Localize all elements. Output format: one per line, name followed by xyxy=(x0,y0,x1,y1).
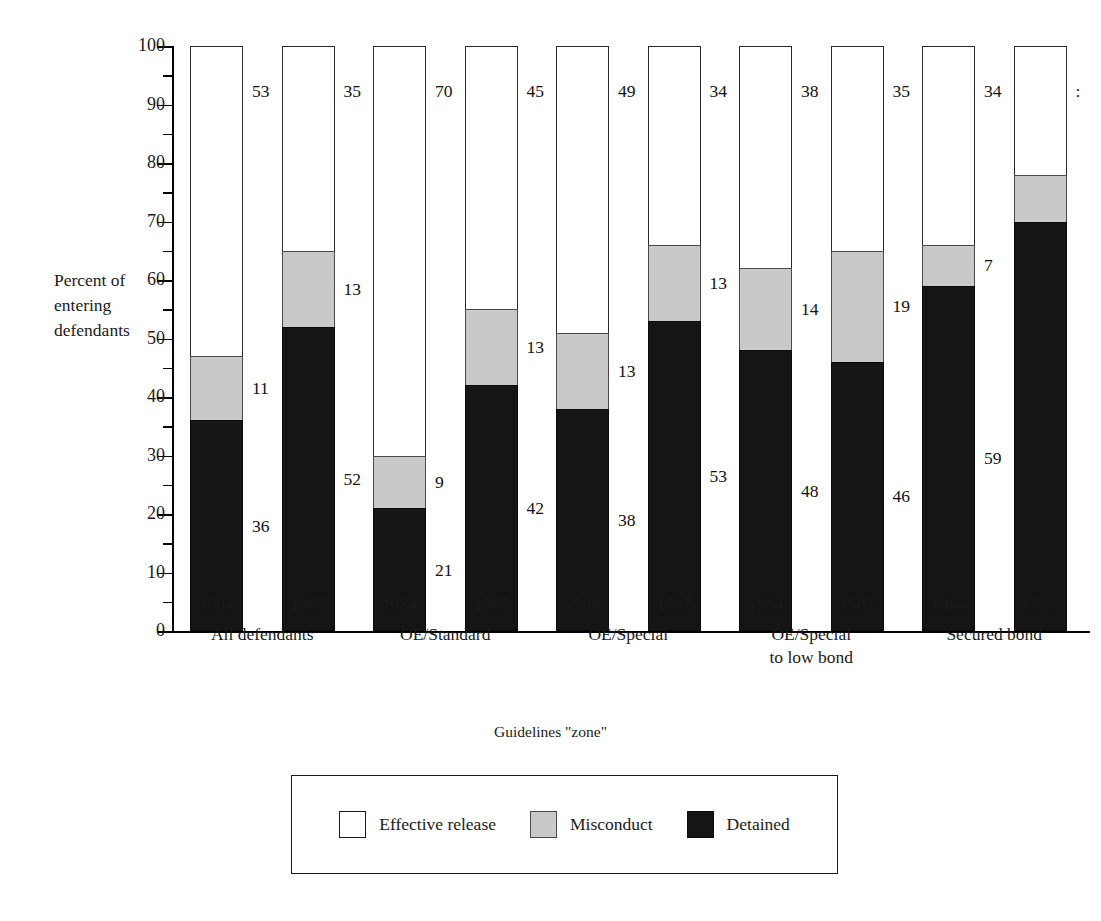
bar-segment-misconduct[interactable] xyxy=(282,251,335,327)
y-tick-mark-minor xyxy=(163,251,172,253)
bar-column[interactable] xyxy=(739,46,792,631)
bar-segment-detained[interactable] xyxy=(739,350,792,631)
bar-segment-detained[interactable] xyxy=(282,327,335,631)
x-axis-title: Guidelines "zone" xyxy=(0,723,1101,741)
legend-item-detained[interactable]: Detained xyxy=(687,811,790,838)
bar-value-release: 45 xyxy=(527,81,545,101)
x-tick-label-year: 1984 xyxy=(542,593,623,615)
bar-value-misconduct: 13 xyxy=(710,273,728,293)
bar-value-release: 38 xyxy=(801,81,819,101)
bar-segment-effective-release[interactable] xyxy=(831,46,884,251)
bar-value-detained: 52 xyxy=(344,469,362,489)
x-tick-label-year: 1984 xyxy=(359,593,440,615)
bar-value-release: 35 xyxy=(893,81,911,101)
y-tick-mark-minor xyxy=(163,75,172,77)
y-tick-label: 70 xyxy=(125,210,165,232)
bar-segment-effective-release[interactable] xyxy=(190,46,243,356)
x-axis-group-label: Secured bond xyxy=(899,623,1089,646)
legend-item-misconduct[interactable]: Misconduct xyxy=(530,811,653,838)
x-axis-group-label: OE/Standard xyxy=(350,623,540,646)
bar-segment-effective-release[interactable] xyxy=(465,46,518,309)
bar-value-release: 34 xyxy=(984,81,1002,101)
bar-value-detained: 46 xyxy=(893,486,911,506)
bar-value-misconduct: 13 xyxy=(527,337,545,357)
bar-value-misconduct: 13 xyxy=(344,279,362,299)
bar-column[interactable] xyxy=(922,46,975,631)
bar-segment-effective-release[interactable] xyxy=(739,46,792,268)
y-tick-mark-minor xyxy=(163,485,172,487)
legend-swatch-detained-icon xyxy=(687,811,714,838)
bar-segment-detained[interactable] xyxy=(1014,222,1067,632)
legend: Effective releaseMisconductDetained xyxy=(291,775,838,874)
bar-segment-effective-release[interactable] xyxy=(922,46,975,245)
x-axis-group-label: All defendants xyxy=(167,623,357,646)
bar-segment-effective-release[interactable] xyxy=(556,46,609,333)
bar-segment-misconduct[interactable] xyxy=(465,309,518,385)
y-tick-label: 40 xyxy=(125,385,165,407)
bar-column[interactable] xyxy=(648,46,701,631)
bar-segment-effective-release[interactable] xyxy=(282,46,335,251)
bar-value-detained: 38 xyxy=(618,510,636,530)
bar-segment-effective-release[interactable] xyxy=(648,46,701,245)
bar-column[interactable] xyxy=(831,46,884,631)
y-tick-mark-minor xyxy=(163,543,172,545)
bar-value-release: : xyxy=(1076,81,1081,101)
bar-segment-misconduct[interactable] xyxy=(648,245,701,321)
x-tick-label-year: 1987 xyxy=(451,593,532,615)
bar-value-detained: 42 xyxy=(527,498,545,518)
bar-value-detained: 48 xyxy=(801,481,819,501)
bar-value-misconduct: 7 xyxy=(984,255,993,275)
x-tick-label-year: 1987 xyxy=(1000,593,1081,615)
x-tick-label-year: 1984 xyxy=(725,593,806,615)
bar-value-release: 49 xyxy=(618,81,636,101)
legend-swatch-misconduct-icon xyxy=(530,811,557,838)
x-axis-group-label: OE/Special xyxy=(533,623,723,646)
bar-value-release: 35 xyxy=(344,81,362,101)
bar-segment-misconduct[interactable] xyxy=(739,268,792,350)
bar-segment-detained[interactable] xyxy=(648,321,701,631)
bar-segment-misconduct[interactable] xyxy=(922,245,975,286)
legend-items: Effective releaseMisconductDetained xyxy=(292,804,837,844)
bar-value-misconduct: 9 xyxy=(435,472,444,492)
bar-segment-misconduct[interactable] xyxy=(1014,175,1067,222)
y-tick-label: 10 xyxy=(125,561,165,583)
bar-value-detained: 53 xyxy=(710,466,728,486)
bar-column[interactable] xyxy=(282,46,335,631)
legend-item-effective-release[interactable]: Effective release xyxy=(339,811,496,838)
y-tick-label: 30 xyxy=(125,444,165,466)
bar-value-detained: 21 xyxy=(435,560,453,580)
bar-segment-detained[interactable] xyxy=(922,286,975,631)
y-tick-mark-minor xyxy=(163,426,172,428)
bar-segment-detained[interactable] xyxy=(831,362,884,631)
bar-segment-effective-release[interactable] xyxy=(1014,46,1067,175)
x-axis-group-label: OE/Special to low bond xyxy=(716,623,906,669)
bar-column[interactable] xyxy=(465,46,518,631)
x-tick-label-year: 1987 xyxy=(817,593,898,615)
bar-column[interactable] xyxy=(373,46,426,631)
bar-segment-effective-release[interactable] xyxy=(373,46,426,456)
y-tick-mark-minor xyxy=(163,602,172,604)
x-tick-label-year: 1987 xyxy=(268,593,349,615)
y-tick-label: 60 xyxy=(125,268,165,290)
bar-column[interactable] xyxy=(556,46,609,631)
stacked-bar-chart: Percent of entering defendants 010203040… xyxy=(0,0,1101,921)
plot-area: 0102030405060708090100 36115352133521970… xyxy=(172,46,1090,631)
x-tick-label-year: 1987 xyxy=(634,593,715,615)
bar-value-misconduct: 19 xyxy=(893,296,911,316)
legend-swatch-effective-release-icon xyxy=(339,811,366,838)
bar-column[interactable] xyxy=(190,46,243,631)
legend-label: Effective release xyxy=(379,814,496,834)
y-tick-label: 0 xyxy=(125,619,165,641)
bar-value-detained: 36 xyxy=(252,516,270,536)
bar-value-release: 53 xyxy=(252,81,270,101)
bar-segment-misconduct[interactable] xyxy=(373,456,426,509)
bar-segment-misconduct[interactable] xyxy=(831,251,884,362)
bar-segment-misconduct[interactable] xyxy=(190,356,243,420)
y-axis-line xyxy=(172,46,174,631)
legend-label: Misconduct xyxy=(570,814,653,834)
bar-column[interactable] xyxy=(1014,46,1067,631)
bar-segment-misconduct[interactable] xyxy=(556,333,609,409)
y-tick-mark-minor xyxy=(163,192,172,194)
bar-value-detained: 59 xyxy=(984,448,1002,468)
bar-value-release: 70 xyxy=(435,81,453,101)
